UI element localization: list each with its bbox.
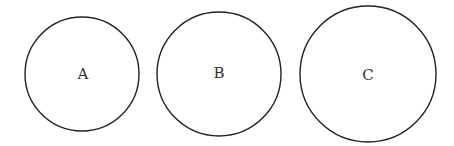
circles-diagram: A B C (0, 0, 454, 146)
circle-b-group: B (157, 12, 281, 136)
circle-c-label: C (362, 66, 373, 84)
circle-c-group: C (300, 6, 436, 142)
circle-b-label: B (213, 64, 224, 82)
circle-a-group: A (25, 17, 139, 131)
circle-a-label: A (77, 65, 89, 83)
